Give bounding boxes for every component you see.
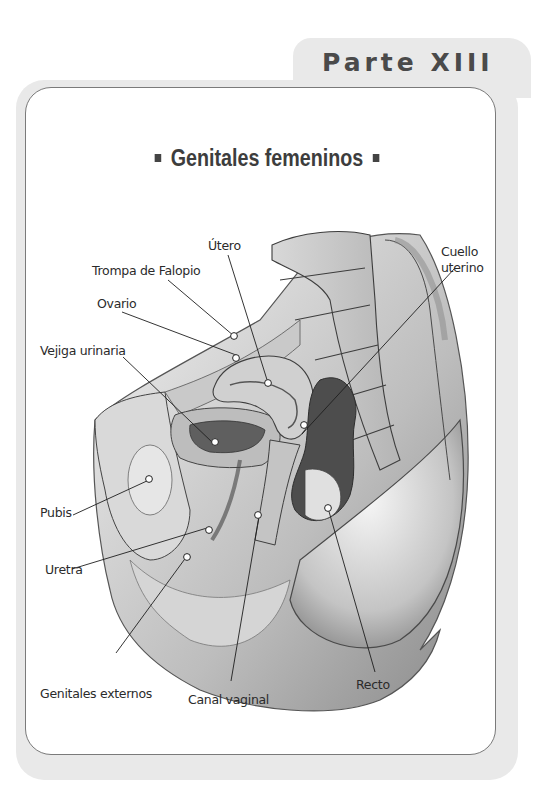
label-recto: Recto: [356, 677, 390, 692]
label-cuello-uterino-line2: uterino: [441, 260, 484, 275]
bladder: [171, 408, 280, 468]
label-pubis: Pubis: [40, 505, 72, 520]
label-vejiga-urinaria: Vejiga urinaria: [40, 343, 126, 358]
label-canal-vaginal: Canal vaginal: [188, 692, 269, 707]
label-cuello-uterino-line1: Cuello: [441, 244, 478, 259]
label-uretra: Uretra: [45, 562, 83, 577]
label-ovario: Ovario: [97, 296, 136, 311]
label-utero: Útero: [208, 238, 241, 253]
label-genitales-externos: Genitales externos: [40, 686, 152, 701]
label-trompa-de-falopio: Trompa de Falopio: [92, 263, 200, 278]
